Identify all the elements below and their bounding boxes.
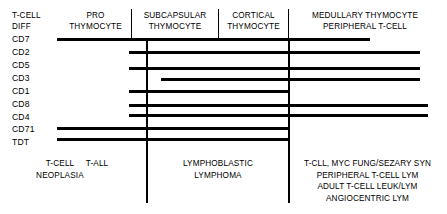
header-left-label-line2: DIFF: [12, 21, 41, 32]
expression-bar-cd7: [57, 38, 370, 41]
header-divider-3: [288, 9, 289, 38]
footer-lymphoblastic-lymphoma-line2: LYMPHOMA: [150, 170, 286, 182]
stage-divider-left: [146, 38, 148, 203]
expression-bar-cd71: [57, 127, 288, 130]
marker-label-cd5: CD5: [12, 60, 30, 70]
marker-label-tdt: TDT: [12, 137, 29, 147]
marker-label-cd4: CD4: [12, 112, 30, 122]
header-divider-2: [218, 9, 219, 38]
header-column-medullary-thymocyte-line2: PERIPHERAL T-CELL: [290, 21, 440, 32]
header-left-label: T-CELL DIFF: [12, 10, 41, 32]
marker-label-cd71: CD71: [12, 124, 35, 134]
header-column-medullary-thymocyte-line1: MEDULLARY THYMOCYTE: [290, 10, 440, 21]
header-column-pro-thymocyte-line1: PRO: [60, 10, 131, 21]
footer-right-neoplasia-line-1: T-CLL, MYC FUNG/SEZARY SYN: [291, 158, 444, 170]
header-column-pro-thymocyte-line2: THYMOCYTE: [60, 21, 131, 32]
header-column-cortical-thymocyte-line1: CORTICAL: [220, 10, 287, 21]
expression-bar-cd3: [161, 78, 420, 81]
expression-bar-cd5: [129, 67, 420, 70]
footer-lymphoblastic-lymphoma: LYMPHOBLASTIC LYMPHOMA: [150, 158, 286, 181]
marker-label-cd3: CD3: [12, 73, 30, 83]
expression-bar-cd1: [129, 90, 288, 93]
t-cell-differentiation-diagram: T-CELL DIFF PRO THYMOCYTE SUBCAPSULAR TH…: [0, 0, 447, 214]
footer-lymphoblastic-lymphoma-line1: LYMPHOBLASTIC: [150, 158, 286, 170]
header-left-label-line1: T-CELL: [12, 10, 41, 21]
footer-right-neoplasia-line-4: ANGIOCENTRIC LYM: [291, 193, 444, 205]
header-column-subcapsular-thymocyte-line1: SUBCAPSULAR: [133, 10, 217, 21]
expression-bar-tdt: [57, 138, 288, 141]
stage-divider-right: [288, 38, 290, 203]
expression-bar-cd2: [129, 51, 420, 54]
marker-label-cd2: CD2: [12, 47, 30, 57]
expression-bar-cd8: [129, 104, 428, 107]
header-divider-1: [131, 9, 132, 38]
header-column-subcapsular-thymocyte-line2: THYMOCYTE: [133, 21, 217, 32]
header-column-pro-thymocyte: PRO THYMOCYTE: [60, 10, 131, 32]
footer-t-all: T-ALL: [62, 158, 132, 170]
header-column-cortical-thymocyte: CORTICAL THYMOCYTE: [220, 10, 287, 32]
marker-label-cd7: CD7: [12, 34, 30, 44]
footer-right-neoplasia-line-2: PERIPHERAL T-CELL LYM: [291, 170, 444, 182]
footer-left-label-line2: NEOPLASIA: [10, 170, 110, 182]
footer-right-neoplasia-block: T-CLL, MYC FUNG/SEZARY SYN PERIPHERAL T-…: [291, 158, 444, 204]
expression-bar-cd4: [129, 114, 428, 117]
marker-label-cd8: CD8: [12, 99, 30, 109]
header-column-cortical-thymocyte-line2: THYMOCYTE: [220, 21, 287, 32]
marker-label-cd1: CD1: [12, 86, 30, 96]
header-column-subcapsular-thymocyte: SUBCAPSULAR THYMOCYTE: [133, 10, 217, 32]
footer-right-neoplasia-line-3: ADULT T-CELL LEUK/LYM: [291, 181, 444, 193]
header-column-medullary-thymocyte: MEDULLARY THYMOCYTE PERIPHERAL T-CELL: [290, 10, 440, 32]
